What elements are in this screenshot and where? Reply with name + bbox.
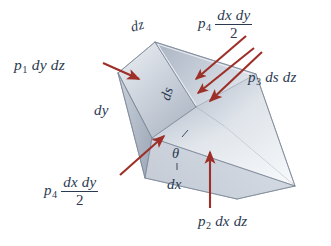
label-p1-subscript: 1 [22,64,28,75]
label-p3-expression: ds dz [265,69,296,85]
label-dimension-dy: dy [94,103,109,118]
label-p2-expression: dx dz [215,213,247,229]
label-p2-symbol: p [198,213,206,229]
label-p1-symbol: p [14,56,22,73]
label-p4-bottom: p4 dx dy 2 [44,175,98,208]
wedge-force-diagram: p1 dy dz p4 dx dy 2 p3 ds dz p4 dx dy 2 … [0,0,331,246]
label-p4-bottom-symbol: p [44,182,52,198]
label-dimension-dx: dx [167,177,182,192]
label-p1-expression: dy dz [32,56,65,73]
label-p4-bottom-subscript: 4 [52,189,57,200]
label-p2-dx-dz: p2 dx dz [198,214,247,231]
label-p4-top-numerator: dx dy [215,8,252,24]
label-p4-top-symbol: p [198,15,206,31]
label-p3-subscript: 3 [256,76,261,87]
prism-illustration [0,0,331,246]
label-p4-bottom-fraction: dx dy 2 [61,175,98,208]
label-p4-top-subscript: 4 [206,22,211,33]
label-p4-bottom-numerator: dx dy [61,175,98,191]
label-angle-theta: θ [172,146,179,161]
label-p2-subscript: 2 [206,220,211,231]
label-p3-ds-dz: p3 ds dz [248,70,297,87]
label-p4-bottom-denominator: 2 [74,192,86,208]
label-p4-top: p4 dx dy 2 [198,8,252,41]
label-p4-top-fraction: dx dy 2 [215,8,252,41]
label-p4-top-denominator: 2 [228,25,240,41]
label-p1-dy-dz: p1 dy dz [14,57,65,76]
label-p3-symbol: p [248,69,256,85]
